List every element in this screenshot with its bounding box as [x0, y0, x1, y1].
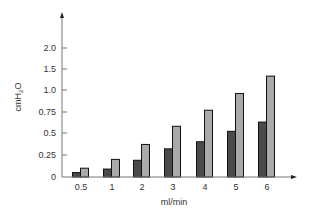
x-axis-arrow-icon	[291, 175, 297, 179]
x-axis-label: ml/min	[161, 197, 188, 207]
x-tick-label: 2	[139, 182, 144, 192]
y-axis-label: cmH2O	[13, 83, 24, 112]
bar	[81, 168, 89, 177]
y-tick-label: 0.25	[38, 150, 56, 160]
bar	[73, 173, 81, 177]
bar	[104, 169, 112, 177]
bar	[142, 144, 150, 177]
y-axis-ticks: 00.250.50.751.01.52.0	[38, 43, 67, 182]
bar	[267, 76, 275, 177]
y-tick-label: 2.0	[43, 43, 56, 53]
x-tick-label: 6	[264, 182, 269, 192]
x-tick-label: 0.5	[75, 182, 88, 192]
bar	[205, 110, 213, 177]
bar	[173, 126, 181, 177]
x-tick-label: 1	[109, 182, 114, 192]
bar	[134, 160, 142, 177]
x-tick-label: 3	[170, 182, 175, 192]
x-tick-label: 5	[233, 182, 238, 192]
bar	[112, 159, 120, 177]
bar-chart: 00.250.50.751.01.52.0 0.5123456 ml/min c…	[0, 0, 309, 213]
x-axis-ticks: 0.5123456	[75, 182, 270, 192]
y-tick-label: 0	[51, 172, 56, 182]
bar	[259, 122, 267, 177]
bars-group	[73, 76, 275, 177]
bar	[165, 149, 173, 177]
y-tick-label: 0.5	[43, 128, 56, 138]
y-tick-label: 0.75	[38, 107, 56, 117]
y-axis-arrow-icon	[60, 12, 64, 18]
x-tick-label: 4	[202, 182, 207, 192]
y-tick-label: 1.5	[43, 64, 56, 74]
bar	[236, 94, 244, 177]
bar	[197, 142, 205, 177]
bar	[228, 131, 236, 177]
y-tick-label: 1.0	[43, 85, 56, 95]
